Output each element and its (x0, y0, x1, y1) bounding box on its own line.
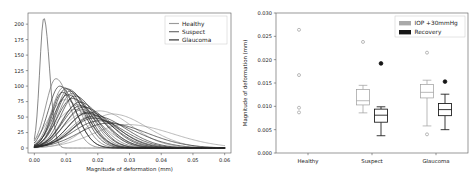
outlier-point (298, 74, 301, 77)
box (421, 84, 434, 98)
svg-text:0.02: 0.02 (92, 157, 103, 163)
legend: HealthySuspectGlaucoma (165, 16, 227, 44)
svg-text:175: 175 (14, 37, 24, 43)
svg-text:0.05: 0.05 (187, 157, 198, 163)
outlier-point (362, 40, 365, 43)
panel-boxplot: 0.0000.0050.0100.0150.0200.0250.030Magni… (236, 0, 472, 180)
x-axis-title: Magnitude of deformation (mm) (86, 166, 173, 173)
svg-text:0.03: 0.03 (124, 157, 135, 163)
legend-label: Glaucoma (182, 37, 212, 43)
box (375, 109, 388, 122)
legend-swatch (399, 21, 411, 25)
svg-text:0.000: 0.000 (257, 150, 272, 156)
legend: IOP +30mmHgRecovery (395, 16, 465, 37)
svg-text:75: 75 (18, 98, 24, 104)
box (357, 90, 370, 105)
outlier-point (298, 28, 301, 31)
legend-swatch (399, 30, 411, 34)
kde-curve (34, 102, 224, 148)
svg-text:0.020: 0.020 (257, 57, 272, 63)
svg-text:0.030: 0.030 (257, 10, 272, 16)
category-label: Suspect (361, 158, 382, 165)
kde-plot-svg: 02550751001251501752000.000.010.020.030.… (0, 0, 236, 180)
svg-text:25: 25 (18, 129, 24, 135)
svg-text:0.01: 0.01 (60, 157, 71, 163)
outlier-point (426, 133, 429, 136)
boxplot-svg: 0.0000.0050.0100.0150.0200.0250.030Magni… (236, 0, 472, 180)
legend-label: Healthy (182, 21, 205, 28)
svg-text:0.025: 0.025 (257, 33, 272, 39)
category-label: Healthy (298, 158, 320, 165)
figure-container: 02550751001251501752000.000.010.020.030.… (0, 0, 472, 180)
svg-text:0.005: 0.005 (257, 127, 272, 133)
svg-text:125: 125 (14, 68, 24, 74)
legend-label: Suspect (182, 29, 206, 36)
svg-text:150: 150 (14, 52, 24, 58)
svg-text:0.015: 0.015 (257, 80, 272, 86)
svg-text:0.06: 0.06 (219, 157, 230, 163)
box-group (298, 28, 452, 136)
outlier-point (298, 111, 301, 114)
svg-text:50: 50 (18, 114, 24, 120)
outlier-point (426, 51, 429, 54)
svg-text:100: 100 (14, 83, 24, 89)
svg-text:0.04: 0.04 (156, 157, 167, 163)
svg-text:200: 200 (14, 21, 24, 27)
outlier-point (298, 106, 301, 109)
panel-kde-curves: 02550751001251501752000.000.010.020.030.… (0, 0, 236, 180)
svg-text:0.00: 0.00 (29, 157, 40, 163)
y-axis-title: Magnitude of deformation (mm) (242, 40, 249, 127)
legend-label: Recovery (415, 29, 442, 36)
legend-label: IOP +30mmHg (415, 20, 458, 27)
svg-text:0.010: 0.010 (257, 103, 272, 109)
outlier-point (443, 80, 447, 84)
outlier-point (379, 62, 383, 66)
svg-text:0: 0 (21, 145, 24, 151)
category-label: Glaucoma (422, 158, 449, 164)
